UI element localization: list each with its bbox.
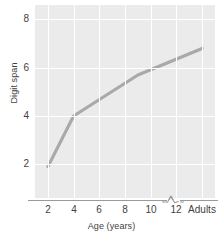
gridline-vertical (48, 5, 49, 198)
x-axis-tick-label: Adults (188, 204, 216, 216)
gridline-vertical (151, 5, 152, 198)
y-axis-tick-label: 2 (5, 159, 29, 169)
x-axis-tick-label: 8 (122, 204, 128, 216)
gridline-vertical (176, 5, 177, 198)
x-axis-tick-label: 4 (71, 204, 77, 216)
x-axis-title: Age (years) (0, 221, 223, 232)
chart-figure: Digit span 2468 24681012Adults Age (year… (0, 0, 223, 240)
gridline-vertical (125, 5, 126, 198)
y-axis-tick-label: 6 (5, 63, 29, 73)
x-axis-tick-label: 12 (170, 204, 181, 216)
plot-area (35, 5, 215, 198)
gridline-vertical (74, 5, 75, 198)
y-axis-tick-labels: 2468 (0, 0, 34, 198)
x-axis-tick-label: 6 (96, 204, 102, 216)
gridline-vertical (99, 5, 100, 198)
x-axis-tick-label: 10 (145, 204, 156, 216)
y-axis-tick-label: 8 (5, 14, 29, 24)
gridline-vertical (202, 5, 203, 198)
x-axis-tick-labels: 24681012Adults (0, 204, 223, 220)
y-axis-tick-label: 4 (5, 111, 29, 121)
x-axis-line (28, 200, 218, 201)
x-axis-tick-label: 2 (45, 204, 51, 216)
